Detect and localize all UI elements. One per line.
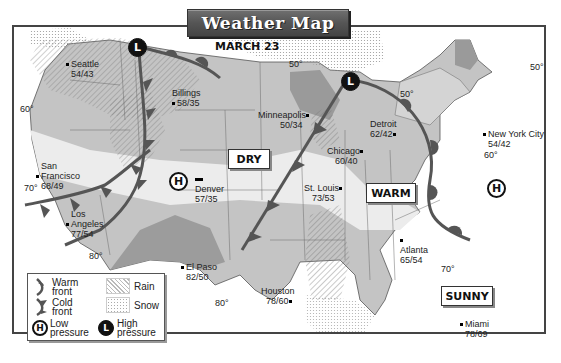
rain-swatch [106, 278, 130, 294]
dry-tag: DRY [228, 149, 270, 169]
legend-rain: Rain [106, 278, 155, 294]
city-san-francisco: SanFrancisco68/49 [36, 161, 80, 191]
high-pressure-icon: L [98, 320, 114, 336]
high-pressure-icon: L [341, 72, 360, 91]
sunny-tag: SUNNY [441, 286, 493, 306]
city-houston: Houston78/60 [261, 286, 295, 306]
low-pressure-icon: H [32, 320, 48, 336]
isotherm-label: 70° [24, 183, 38, 193]
high-pressure-icon: L [128, 38, 147, 57]
legend-high-pressure: L Highpressure [98, 319, 156, 337]
city-seattle: Seattle54/43 [66, 59, 99, 79]
low-pressure-icon: H [169, 172, 188, 191]
city-el-paso: El Paso82/50 [181, 262, 217, 282]
city-miami: Miami78/69 [460, 319, 489, 339]
isotherm-label: 60° [484, 150, 498, 160]
warm-front-icon [34, 277, 48, 297]
isotherm-label: 80° [89, 251, 103, 261]
city-los-angeles: LosAngeles77/54 [66, 209, 104, 239]
city-atlanta: Atlanta65/54 [400, 235, 428, 265]
isotherm-label: 50° [530, 62, 544, 72]
city-detroit: Detroit62/42 [370, 119, 398, 139]
map-title: Weather Map [202, 13, 335, 33]
legend-cold-front: Coldfront [34, 297, 73, 317]
city-chicago: Chicago60/40 [327, 146, 365, 166]
city-minneapolis: Minneapolis50/34 [258, 110, 311, 130]
city-new-york: New York City54/42 [483, 129, 544, 149]
legend-snow: Snow [106, 297, 159, 313]
isotherm-label: 50° [289, 59, 303, 69]
isotherm-label: 60° [20, 104, 34, 114]
isotherm-label: 50° [400, 89, 414, 99]
city-billings: Billings58/35 [172, 88, 201, 108]
snow-swatch [106, 297, 130, 313]
legend-warm-front: Warmfront [34, 277, 78, 297]
legend-low-pressure: H Lowpressure [32, 319, 89, 337]
warm-tag: WARM [366, 183, 416, 203]
cold-front-icon [34, 297, 48, 317]
map-legend: Warmfront Coldfront H Lowpressure Rain S… [27, 273, 165, 341]
low-pressure-icon: H [487, 179, 506, 198]
map-date: MARCH 23 [215, 40, 279, 53]
city-st-louis: St. Louis73/53 [304, 183, 344, 203]
city-denver: Denver57/35 [195, 174, 224, 204]
isotherm-label: 80° [215, 298, 229, 308]
title-plate: Weather Map [187, 9, 349, 37]
isotherm-label: 70° [441, 264, 455, 274]
